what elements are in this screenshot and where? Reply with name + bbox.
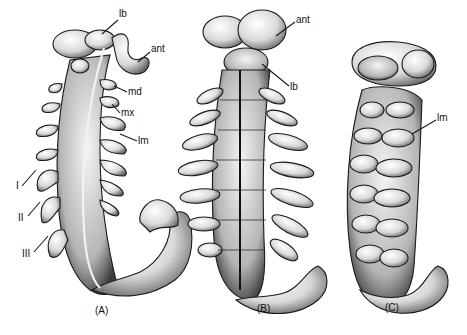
label-II-a: II (18, 213, 24, 223)
caption-b: (B) (257, 304, 270, 314)
label-lm-a: lm (138, 136, 149, 146)
illustration (0, 0, 467, 335)
label-lm-c: lm (437, 113, 448, 123)
label-ant-b: ant (296, 15, 310, 25)
figure-embryo-stages: lb ant md mx lm I II III ant lb lm (A) (… (0, 0, 467, 335)
label-I-a: I (16, 181, 19, 191)
label-mx-a: mx (121, 108, 134, 118)
panel-b-drawing (177, 10, 327, 314)
panel-a-drawing (22, 20, 192, 296)
panel-c-drawing (347, 42, 448, 314)
label-lb-a: lb (119, 9, 127, 19)
label-ant-a: ant (151, 44, 165, 54)
label-md-a: md (128, 87, 142, 97)
label-III-a: III (22, 249, 30, 259)
caption-a: (A) (95, 306, 108, 316)
caption-c: (C) (385, 303, 399, 313)
label-lb-b: lb (290, 82, 298, 92)
